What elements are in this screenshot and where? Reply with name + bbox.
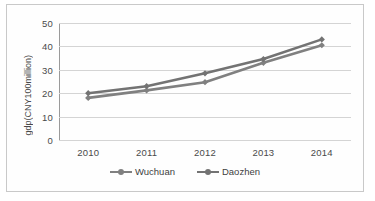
x-axis-tick-label: 2014 [311,147,333,158]
y-axis-tick-label: 30 [42,64,53,75]
y-axis-title: gdp(CNY100million) [23,55,36,136]
y-axis-tick-label: 50 [42,18,53,29]
chart-legend: WuchuanDaozhen [7,166,363,177]
plot-area: 50403020100 20102011201220132014 [59,23,351,140]
gridline [59,140,351,141]
data-point-marker [319,42,325,48]
y-axis-tick-label: 0 [48,135,53,146]
legend-item-wuchuan[interactable]: Wuchuan [110,166,175,177]
legend-marker-icon [110,167,132,176]
y-axis-tick-label: 20 [42,88,53,99]
legend-label: Daozhen [222,166,260,177]
y-axis-tick-label: 10 [42,111,53,122]
data-point-marker [85,90,91,96]
x-axis-tick-label: 2012 [194,147,216,158]
series-plot [59,23,351,140]
series-daozhen [85,36,325,96]
legend-label: Wuchuan [135,166,175,177]
data-point-marker [202,70,208,76]
data-point-marker [319,36,325,42]
y-axis-tick-label: 40 [42,41,53,52]
x-axis-tick-label: 2013 [252,147,274,158]
data-point-marker [202,79,208,85]
legend-item-daozhen[interactable]: Daozhen [197,166,260,177]
legend-marker-icon [197,167,219,176]
x-axis-tick-label: 2010 [77,147,99,158]
x-axis-tick-label: 2011 [136,147,157,158]
chart-frame: gdp(CNY100million) 50403020100 201020112… [6,4,364,192]
data-point-marker [144,83,150,89]
